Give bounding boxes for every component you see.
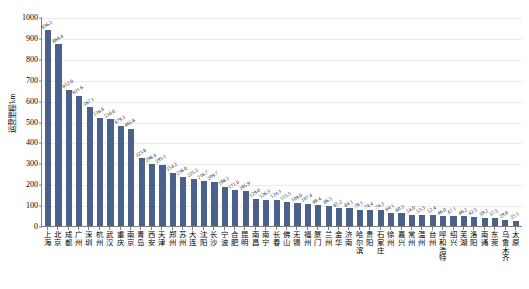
bar-value-label: 74.3 <box>374 201 384 210</box>
x-label-slot: 深圳 <box>84 231 94 289</box>
bar[interactable]: 64.1 <box>388 213 394 226</box>
x-label-slot: 贵阳 <box>365 231 375 289</box>
bar[interactable]: 42.5 <box>471 217 477 226</box>
bar[interactable]: 46.0 <box>440 216 446 226</box>
bar[interactable]: 510.0 <box>107 119 113 226</box>
bar[interactable]: 109.0 <box>294 203 300 226</box>
x-label-slot: 绍兴 <box>448 231 458 289</box>
bar-value-label: 47.1 <box>447 207 457 216</box>
plot-area: 01002003004005006007008009001000 936.286… <box>41 18 522 227</box>
bar[interactable]: 171.0 <box>232 190 238 226</box>
bar[interactable]: 39.2 <box>482 218 488 226</box>
bar-value-label: 621.6 <box>72 85 85 95</box>
x-axis-category-label: 东莞 <box>491 231 499 247</box>
bar[interactable]: 84.1 <box>346 208 352 226</box>
bar[interactable]: 115.5 <box>284 202 290 226</box>
bar[interactable]: 236.0 <box>180 177 186 226</box>
bar-slot: 216.7 <box>199 18 209 226</box>
bar[interactable]: 74.4 <box>367 210 373 226</box>
bar-slot: 60.3 <box>396 18 406 226</box>
bar-slot: 78.1 <box>355 18 365 226</box>
bar-slot: 209.7 <box>209 18 219 226</box>
bar[interactable]: 621.6 <box>76 96 82 226</box>
x-label-slot: 兰州 <box>323 231 333 289</box>
bar-chart: 运营里程/km 01002003004005006007008009001000… <box>0 0 529 289</box>
bar[interactable]: 37.5 <box>492 218 498 226</box>
x-label-slot: 杭州 <box>94 231 104 289</box>
bar[interactable]: 129.0 <box>253 199 259 226</box>
bar[interactable]: 209.7 <box>211 182 217 226</box>
x-label-slot: 宁波 <box>219 231 229 289</box>
bar-slot: 74.4 <box>365 18 375 226</box>
bar[interactable]: 254.2 <box>170 173 176 226</box>
bar[interactable]: 29.8 <box>502 220 508 226</box>
x-label-slot: 佛山 <box>281 231 291 289</box>
bar[interactable]: 126.3 <box>263 200 269 226</box>
x-axis-category-label: 石家庄 <box>376 231 384 254</box>
bar[interactable]: 293.1 <box>159 165 165 226</box>
bar[interactable]: 323.8 <box>139 158 145 226</box>
bar-slot: 64.1 <box>386 18 396 226</box>
bar-slot: 465.8 <box>126 18 136 226</box>
bar-value-label: 46.0 <box>437 207 447 216</box>
bar-slot: 53.3 <box>417 18 427 226</box>
bar[interactable]: 74.3 <box>378 210 384 226</box>
bar[interactable]: 96.5 <box>326 206 332 226</box>
bar-slot: 936.2 <box>43 18 53 226</box>
bar[interactable]: 54.0 <box>409 215 415 226</box>
bar-slot: 254.2 <box>168 18 178 226</box>
bar[interactable]: 298.4 <box>149 164 155 226</box>
bar[interactable]: 465.8 <box>128 129 134 226</box>
bar[interactable]: 60.3 <box>398 213 404 226</box>
x-axis-category-label: 大连 <box>189 231 197 247</box>
bar[interactable]: 46.2 <box>461 216 467 226</box>
bar[interactable]: 85.2 <box>336 208 342 226</box>
bar-value-label: 96.5 <box>322 196 332 205</box>
x-label-slot: 太原 <box>510 231 520 289</box>
bar-slot: 96.5 <box>324 18 334 226</box>
x-axis-category-label: 金华 <box>335 231 343 247</box>
x-axis-category-label: 沈阳 <box>199 231 207 247</box>
bar[interactable]: 47.1 <box>450 216 456 226</box>
bar[interactable]: 936.2 <box>45 30 51 226</box>
bar[interactable]: 165.9 <box>243 191 249 226</box>
bar[interactable]: 107.4 <box>305 204 311 226</box>
bar[interactable]: 516.0 <box>97 118 103 226</box>
bar[interactable]: 98.4 <box>315 205 321 226</box>
bar[interactable]: 479.3 <box>118 126 124 226</box>
x-label-slot: 金华 <box>333 231 343 289</box>
bar[interactable]: 225.5 <box>191 179 197 226</box>
x-axis-category-label: 南宁 <box>262 231 270 247</box>
x-axis-category-label: 合肥 <box>231 231 239 247</box>
x-label-slot: 南宁 <box>261 231 271 289</box>
bar[interactable]: 53.3 <box>419 215 425 226</box>
x-label-slot: 乌鲁木齐 <box>500 231 510 289</box>
bar-value-label: 567.1 <box>82 97 95 107</box>
bar-slot: 37.5 <box>490 18 500 226</box>
bar[interactable]: 124.3 <box>274 200 280 226</box>
bar[interactable]: 567.1 <box>87 107 93 226</box>
bar[interactable]: 652.0 <box>66 90 72 226</box>
x-axis-category-label: 宁波 <box>220 231 228 247</box>
bar-slot: 652.0 <box>64 18 74 226</box>
bar-slot: 52.4 <box>427 18 437 226</box>
bar[interactable]: 188.1 <box>222 187 228 226</box>
x-label-slot: 南昌 <box>250 231 260 289</box>
x-axis-category-label: 广州 <box>74 231 82 247</box>
x-axis-category-label: 徐州 <box>387 231 395 247</box>
bar[interactable]: 869.4 <box>55 44 61 226</box>
bar[interactable]: 25.1 <box>513 221 519 226</box>
bar-value-label: 25.1 <box>509 211 519 220</box>
x-axis-labels: 上海北京成都广州深圳杭州武汉重庆南京青岛西安天津郑州苏州大连沈阳长沙宁波合肥昆明… <box>41 231 522 289</box>
bar-slot: 567.1 <box>85 18 95 226</box>
x-axis-category-label: 福州 <box>303 231 311 247</box>
bar-slot: 298.4 <box>147 18 157 226</box>
bar[interactable]: 216.7 <box>201 181 207 226</box>
bar[interactable]: 78.1 <box>357 210 363 226</box>
x-label-slot: 郑州 <box>167 231 177 289</box>
x-axis-category-label: 郑州 <box>168 231 176 247</box>
bar-slot: 39.2 <box>479 18 489 226</box>
bar[interactable]: 52.4 <box>430 215 436 226</box>
bar-value-label: 42.5 <box>468 208 478 217</box>
x-axis-category-label: 太原 <box>511 231 519 247</box>
